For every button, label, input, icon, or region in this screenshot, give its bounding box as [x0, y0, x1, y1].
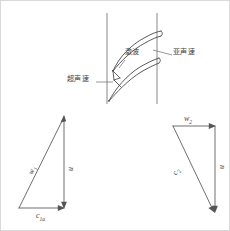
lower-blade-trailing-edge	[159, 58, 160, 63]
shock-wave-label: 激波	[125, 49, 140, 56]
inlet-triangle-vectors	[19, 117, 64, 208]
outlet-c2-vector	[173, 126, 213, 210]
inlet-w1-vector	[19, 117, 64, 208]
inlet-u1-symbol: u	[66, 167, 75, 171]
upper-blade-trailing-edge	[161, 31, 162, 36]
outlet-w2-subscript: 2	[189, 119, 192, 125]
subsonic-label: 亚声速	[173, 49, 195, 56]
shock-wave-branch-lower	[114, 80, 121, 87]
figure-container: 激波 亚声速 超声速 w1 u c1a w2 u c2	[0, 0, 230, 231]
subsonic-leader-line	[153, 50, 172, 55]
cascade-boundaries	[107, 13, 157, 104]
outlet-triangle-vectors	[173, 126, 215, 210]
inlet-w1-arrowhead	[61, 115, 67, 123]
outlet-w2-label: w2	[184, 115, 192, 125]
outlet-u2-symbol: u	[217, 165, 226, 169]
inlet-c1a-subscript: 1a	[40, 216, 46, 222]
inlet-triangle-arrowheads	[58, 115, 67, 211]
shock-wave-foot	[114, 78, 120, 80]
inlet-c1a-label: c1a	[36, 212, 45, 222]
lower-blade-leading-edge	[108, 100, 109, 101]
supersonic-label: 超声速	[67, 76, 89, 83]
outlet-u2-label: u	[218, 165, 226, 169]
diagram-canvas	[1, 1, 230, 231]
inlet-u1-label: u	[67, 167, 75, 171]
